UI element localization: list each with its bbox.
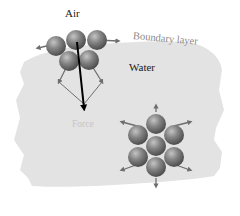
water-label: Water [129,61,155,73]
force-label: Force [72,119,94,129]
air-label: Air [65,7,80,19]
surface-tension-diagram: Air Boundary layer Water Force [0,0,240,216]
water-region [14,41,224,187]
